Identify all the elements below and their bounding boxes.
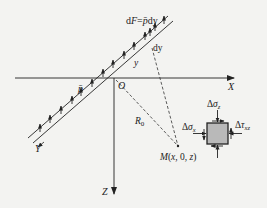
- dy-label: dy: [153, 43, 163, 53]
- delta-sigma-z-label: Δσz: [207, 99, 221, 110]
- x-axis-label: X: [227, 81, 235, 92]
- delta-sigma-x-label: Δσx: [182, 122, 196, 133]
- delta-tau-xz-label: Δτxz: [235, 120, 250, 131]
- line-load-strip: [28, 16, 173, 143]
- diagram-canvas: dF=p̄dy dy y p̄ O X Y Z R0 M(x, 0, z) Δσ…: [0, 0, 267, 208]
- stress-element: [193, 110, 242, 158]
- force-label: dF=p̄dy: [126, 15, 158, 26]
- p-bar-label: p̄: [77, 83, 83, 94]
- y-label: y: [133, 58, 139, 68]
- point-m-label: M(x, 0, z): [159, 152, 196, 163]
- z-axis-label: Z: [102, 186, 108, 197]
- origin-label: O: [118, 80, 125, 91]
- point-m-marker: [177, 145, 179, 147]
- radius-label: R0: [134, 116, 145, 128]
